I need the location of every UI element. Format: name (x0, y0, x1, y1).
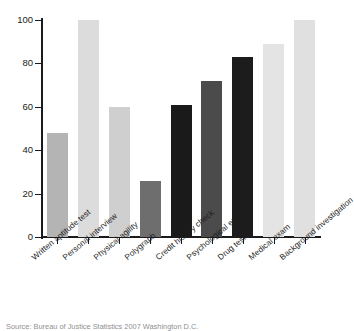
y-tick-label-80: 80 (0, 58, 33, 67)
bars-layer (42, 20, 320, 237)
bar (171, 105, 192, 237)
y-tick-label-60: 60 (0, 102, 33, 111)
bar (47, 133, 68, 237)
bar (263, 44, 284, 237)
bar (140, 181, 161, 237)
y-tick-label-100: 100 (0, 15, 33, 24)
bar (294, 20, 315, 237)
source-caption: Source: Bureau of Justice Statistics 200… (6, 322, 325, 331)
bar (78, 20, 99, 237)
y-tick-label-20: 20 (0, 189, 33, 198)
y-tick-label-40: 40 (0, 145, 33, 154)
y-tick-label-0: 0 (0, 232, 33, 241)
